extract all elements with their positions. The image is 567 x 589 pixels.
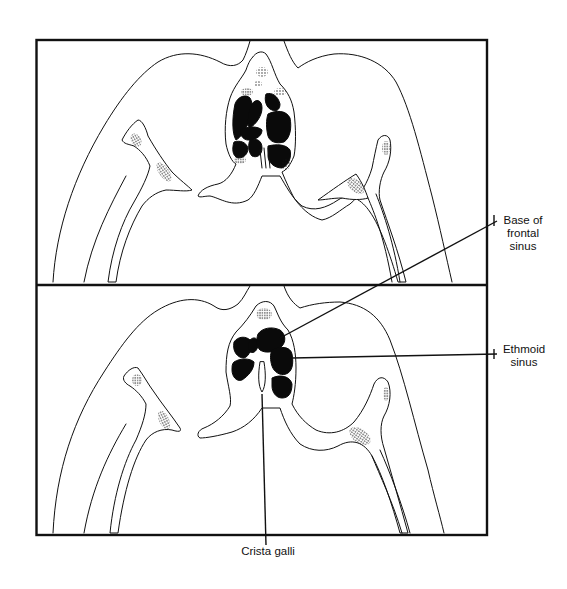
label-line: sinus xyxy=(498,240,548,253)
label-line: sinus xyxy=(497,356,551,369)
label-line: Ethmoid xyxy=(497,343,551,356)
label-line: Base of xyxy=(498,214,548,227)
leader-crista-galli xyxy=(262,394,266,545)
figure-drawing xyxy=(0,0,567,589)
leader-ethmoid-sinus xyxy=(292,354,497,358)
label-text: Crista galli xyxy=(241,545,295,557)
ethmoid-bony-block-upper xyxy=(198,52,406,282)
label-crista-galli: Crista galli xyxy=(228,545,308,558)
ethmoid-bony-block-lower xyxy=(198,302,408,534)
label-ethmoid-sinus: Ethmoid sinus xyxy=(497,343,551,369)
anatomical-figure: Base of frontal sinus Ethmoid sinus Cris… xyxy=(0,0,567,589)
label-base-of-frontal-sinus: Base of frontal sinus xyxy=(498,214,548,253)
lower-panel xyxy=(53,286,444,533)
upper-panel xyxy=(53,41,452,282)
label-line: frontal xyxy=(498,227,548,240)
left-orbital-wing-lower xyxy=(110,367,181,533)
left-orbital-wing-upper xyxy=(108,120,192,282)
